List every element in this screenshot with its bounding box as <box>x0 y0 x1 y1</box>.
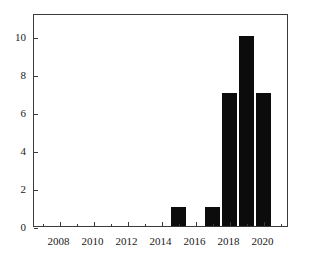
x-tick-minor-mark <box>247 224 248 226</box>
y-tick-label: 10 <box>15 31 26 42</box>
y-tick-label: 8 <box>21 69 27 80</box>
x-tick-label: 2014 <box>150 236 172 247</box>
x-tick-minor-mark <box>43 224 44 226</box>
x-tick-mark <box>94 222 95 226</box>
y-tick-label: 6 <box>21 107 27 118</box>
x-tick-label: 2012 <box>116 236 138 247</box>
x-tick-mark <box>60 222 61 226</box>
x-tick-minor-mark <box>111 224 112 226</box>
y-tick-label: 0 <box>21 222 27 233</box>
bar <box>222 93 236 226</box>
x-tick-label: 2018 <box>218 236 240 247</box>
bar <box>256 93 270 226</box>
bar <box>239 36 253 226</box>
y-tick-label: 4 <box>21 145 27 156</box>
x-tick-minor-mark <box>77 224 78 226</box>
x-tick-minor-mark <box>145 224 146 226</box>
x-tick-mark <box>162 222 163 226</box>
x-tick-label: 2008 <box>48 236 70 247</box>
y-tick-mark <box>34 38 38 39</box>
y-tick-mark <box>34 152 38 153</box>
x-tick-mark <box>264 222 265 226</box>
x-tick-label: 2010 <box>82 236 104 247</box>
chart-figure: 0246810 2008201020122014201620182020 <box>0 0 309 264</box>
y-tick-mark <box>34 228 38 229</box>
x-tick-label: 2020 <box>252 236 274 247</box>
y-tick-mark <box>34 190 38 191</box>
x-tick-mark <box>230 222 231 226</box>
y-tick-label: 2 <box>21 183 27 194</box>
x-tick-minor-mark <box>281 224 282 226</box>
y-tick-mark <box>34 114 38 115</box>
x-tick-mark <box>196 222 197 226</box>
plot-frame <box>33 14 288 227</box>
bars-layer <box>34 15 287 226</box>
x-tick-minor-mark <box>213 224 214 226</box>
x-tick-minor-mark <box>179 224 180 226</box>
x-tick-label: 2016 <box>184 236 206 247</box>
y-tick-mark <box>34 76 38 77</box>
x-tick-mark <box>128 222 129 226</box>
